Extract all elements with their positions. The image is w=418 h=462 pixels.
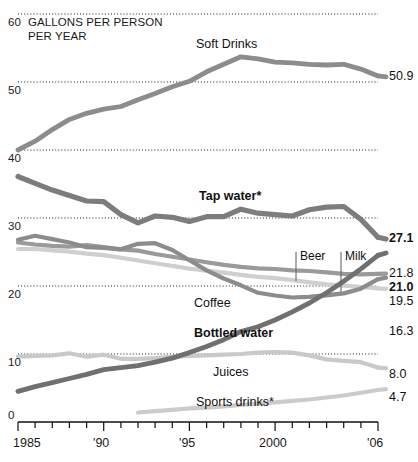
y-tick-40: 40 (8, 152, 21, 165)
stub-juices (378, 368, 386, 369)
series-lines (18, 57, 378, 413)
unit-note-line1: GALLONS PER PERSON (28, 16, 163, 29)
end-value-bottled-water: 16.3 (389, 325, 413, 339)
callout-label-milk: Milk (345, 250, 366, 263)
stub-soft-drinks (378, 76, 386, 77)
series-line-juices (18, 352, 378, 368)
series-line-tap-water (18, 177, 378, 238)
series-label-coffee: Coffee (194, 297, 231, 311)
x-tick-2006: '06 (367, 437, 383, 451)
chart-plot-area (0, 0, 418, 462)
stub-sports-drinks (378, 389, 386, 390)
series-label-bottled-water: Bottled water (194, 327, 273, 341)
end-value-coffee: 21.0 (389, 281, 413, 295)
y-tick-20: 20 (8, 288, 21, 301)
series-label-sports-drinks: Sports drinks* (196, 396, 274, 410)
x-tick-1995: '95 (179, 437, 195, 451)
x-tick-1990: '90 (93, 437, 109, 451)
series-line-bottled-water (18, 255, 378, 391)
end-value-tap-water: 27.1 (389, 232, 413, 246)
end-value-juices: 8.0 (389, 368, 406, 382)
beverage-consumption-chart: GALLONS PER PERSON PER YEAR 60 50 40 30 … (0, 0, 418, 462)
y-tick-0: 0 (8, 409, 14, 422)
end-value-milk: 21.8 (389, 267, 413, 281)
y-tick-30: 30 (8, 220, 21, 233)
stub-bottled-water (378, 253, 386, 255)
series-line-soft-drinks (18, 57, 378, 150)
end-value-beer: 19.5 (389, 295, 413, 309)
y-tick-10: 10 (8, 356, 21, 369)
x-axis-ticks (18, 422, 378, 431)
callout-label-beer: Beer (300, 250, 325, 263)
end-value-soft-drinks: 50.9 (389, 70, 413, 84)
end-stubs (378, 76, 386, 390)
x-axis (18, 422, 378, 431)
series-line-coffee (18, 236, 378, 298)
x-tick-2000: 2000 (259, 437, 287, 451)
end-value-sports-drinks: 4.7 (389, 391, 406, 405)
y-tick-60: 60 (8, 16, 21, 29)
series-label-tap-water: Tap water* (199, 190, 261, 204)
y-tick-50: 50 (8, 84, 21, 97)
series-label-juices: Juices (213, 366, 248, 380)
stub-coffee (378, 278, 386, 280)
stub-tap-water (378, 237, 386, 239)
series-label-soft-drinks: Soft Drinks (196, 38, 257, 52)
x-tick-1985: 1985 (13, 437, 41, 451)
unit-note-line2: PER YEAR (28, 30, 87, 43)
